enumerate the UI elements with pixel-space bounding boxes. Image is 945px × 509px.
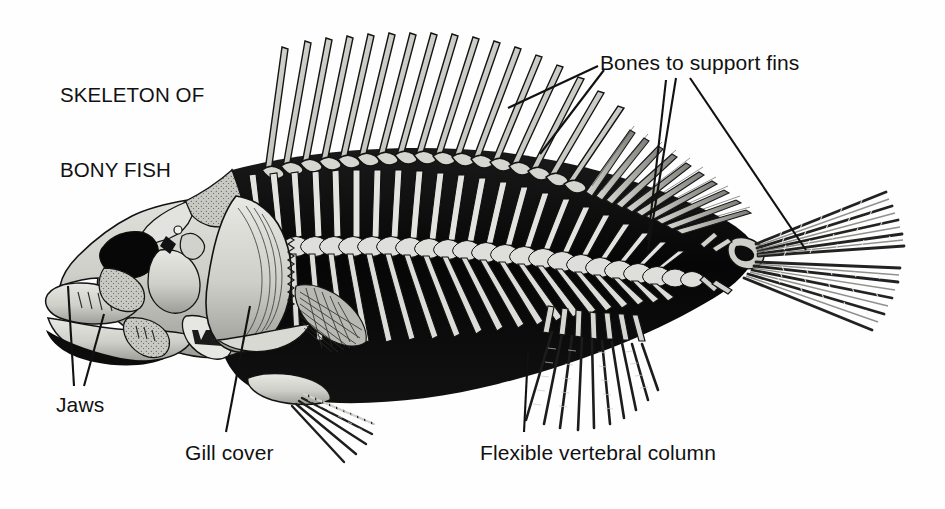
figure-title: SKELETON OF BONY FISH	[60, 32, 204, 232]
label-flexible-vertebral-column: Flexible vertebral column	[480, 440, 716, 465]
title-line-2: BONY FISH	[60, 157, 204, 182]
caudal-lower-rays	[744, 262, 900, 330]
title-line-1: SKELETON OF	[60, 82, 204, 107]
label-gill-cover: Gill cover	[185, 440, 274, 465]
label-bones-to-support-fins: Bones to support fins	[600, 50, 799, 75]
figure-canvas: SKELETON OF BONY FISH Bones to support f…	[0, 0, 945, 509]
label-jaws: Jaws	[56, 392, 104, 417]
pelvic-rays	[292, 394, 374, 462]
